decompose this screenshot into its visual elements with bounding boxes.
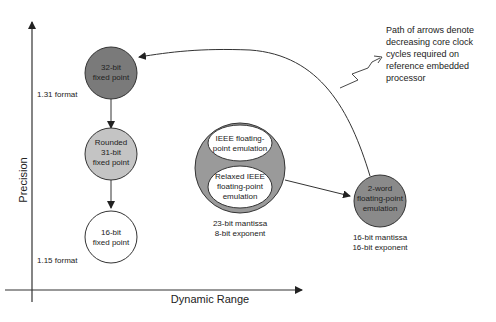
diagram-canvas: Precision Dynamic Range 1.31 format 1.15…	[0, 0, 496, 322]
ieee-caption-exponent: 8-bit exponent	[215, 229, 266, 238]
svg-text:fixed point: fixed point	[93, 238, 130, 247]
svg-text:Relaxed IEEE: Relaxed IEEE	[215, 172, 265, 181]
node-16bit-fixed: 16-bit fixed point	[85, 211, 137, 263]
node-ieee-emulation	[208, 125, 272, 161]
svg-text:31-bit: 31-bit	[101, 148, 122, 157]
node-ieee-group: IEEE floating- point emulation Relaxed I…	[195, 123, 285, 238]
ieee-caption-mantissa: 23-bit mantissa	[213, 219, 268, 228]
y-tick-1-15: 1.15 format	[37, 256, 78, 265]
svg-text:fixed point: fixed point	[93, 73, 130, 82]
svg-text:cycles required on: cycles required on	[386, 49, 459, 59]
svg-text:IEEE floating-: IEEE floating-	[216, 134, 265, 143]
x-axis-label: Dynamic Range	[171, 293, 249, 305]
twoword-caption-exponent: 16-bit exponent	[352, 243, 408, 252]
node-32bit-fixed: 32-bit fixed point	[85, 47, 137, 99]
node-rounded-31bit-fixed: Rounded 31-bit fixed point	[85, 128, 137, 180]
y-tick-1-31: 1.31 format	[37, 90, 78, 99]
svg-text:point emulation: point emulation	[213, 144, 267, 153]
twoword-caption-mantissa: 16-bit mantissa	[353, 233, 408, 242]
arrow-ieee-to-2word	[285, 180, 350, 196]
svg-text:Rounded: Rounded	[95, 138, 127, 147]
svg-text:16-bit: 16-bit	[101, 228, 122, 237]
svg-text:emulation: emulation	[363, 204, 398, 213]
svg-text:decreasing core clock: decreasing core clock	[386, 37, 474, 47]
svg-text:floating-point: floating-point	[357, 194, 404, 203]
svg-text:floating-point: floating-point	[217, 182, 264, 191]
svg-text:2-word: 2-word	[368, 184, 392, 193]
svg-text:Path of arrows denote: Path of arrows denote	[386, 25, 474, 35]
svg-text:reference embedded: reference embedded	[386, 61, 469, 71]
svg-text:emulation: emulation	[223, 192, 258, 201]
annotation-zigzag-pointer	[340, 58, 380, 88]
svg-text:processor: processor	[386, 73, 426, 83]
node-2word-floating-point: 2-word floating-point emulation 16-bit m…	[352, 175, 408, 252]
svg-text:fixed point: fixed point	[93, 158, 130, 167]
y-axis-label: Precision	[17, 157, 29, 202]
annotation-text: Path of arrows denote decreasing core cl…	[386, 25, 474, 83]
svg-text:32-bit: 32-bit	[101, 63, 122, 72]
